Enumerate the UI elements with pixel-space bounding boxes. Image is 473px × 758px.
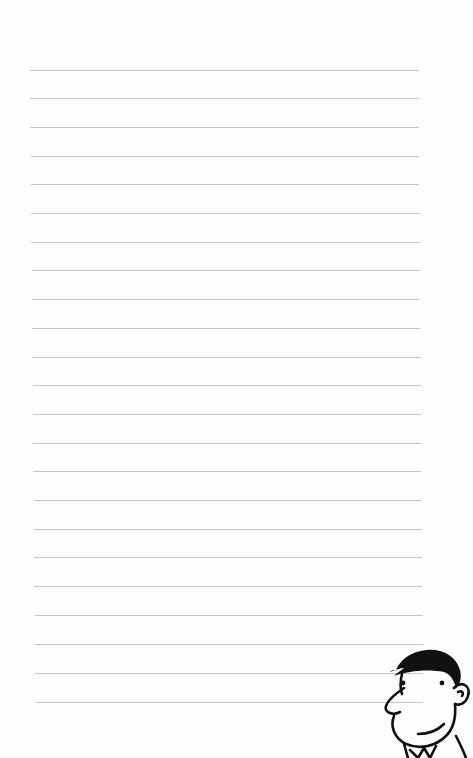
- ruled-line: [32, 299, 420, 300]
- ruled-line: [31, 213, 420, 214]
- ruled-line: [31, 156, 419, 157]
- ruled-line: [31, 242, 420, 243]
- ruled-line: [30, 98, 419, 99]
- ruled-line: [33, 443, 421, 444]
- ruled-line: [33, 385, 421, 386]
- ruled-line: [31, 184, 419, 185]
- cartoon-man-icon: [374, 640, 473, 758]
- ruled-line: [34, 586, 422, 587]
- ruled-line: [32, 328, 420, 329]
- ruled-line: [30, 70, 419, 71]
- ruled-line: [35, 673, 423, 674]
- ruled-line: [34, 529, 422, 530]
- ruled-line: [32, 270, 420, 271]
- ruled-line: [32, 357, 421, 358]
- ruled-line: [33, 471, 421, 472]
- ruled-line: [34, 557, 422, 558]
- ruled-line: [35, 615, 423, 616]
- ruled-line: [30, 127, 419, 128]
- ruled-line: [35, 644, 423, 645]
- ruled-line: [33, 414, 421, 415]
- ruled-line: [34, 500, 422, 501]
- ruled-line: [36, 702, 423, 703]
